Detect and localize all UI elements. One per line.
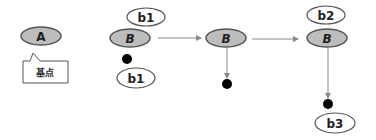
flow-diagram: A 基点 b1 B b1 B b2 B b3 xyxy=(0,0,376,140)
base-node-a: A xyxy=(21,27,61,45)
b-node-3-label: B xyxy=(322,32,331,46)
bubble-b1-bottom-label: b1 xyxy=(128,72,145,86)
base-node-label: A xyxy=(36,30,46,44)
dot-3 xyxy=(323,99,333,109)
bubble-b2-label: b2 xyxy=(318,9,335,23)
dot-2 xyxy=(222,79,232,89)
b-node-2-label: B xyxy=(221,32,230,46)
callout-text: 基点 xyxy=(35,67,54,78)
bubble-b1-top-label: b1 xyxy=(138,11,155,25)
bubble-b3-label: b3 xyxy=(327,117,344,131)
b-node-3: b2 B b3 xyxy=(307,6,355,133)
callout-base-point: 基点 xyxy=(23,53,68,83)
b-node-2: B xyxy=(206,29,246,89)
b-node-1-label: B xyxy=(125,32,134,46)
dot-1 xyxy=(122,54,132,64)
b-node-1: b1 B b1 xyxy=(110,8,165,88)
